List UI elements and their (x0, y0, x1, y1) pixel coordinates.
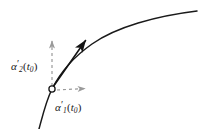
label-alpha-2-prime: α′2(t0) (11, 59, 37, 74)
tangent-vector-diagram: α′2(t0) α′1(t0) (0, 0, 200, 129)
horizontal-component-arrow (57, 89, 85, 91)
label-alpha1-paren-close: ) (78, 101, 82, 113)
label-alpha2-paren-close: ) (34, 60, 38, 72)
base-point-marker (49, 86, 55, 92)
tangent-vector-arrow (53, 41, 86, 88)
label-alpha-1-prime: α′1(t0) (55, 100, 81, 115)
